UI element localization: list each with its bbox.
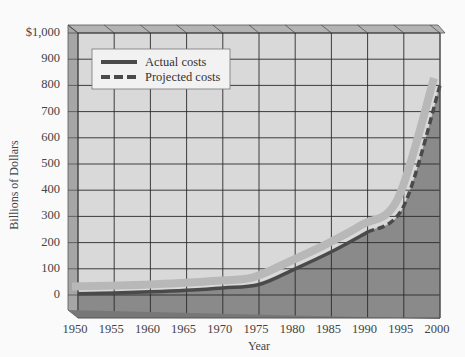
x-tick-label: 2000 [425,322,450,336]
x-tick-label: 1970 [207,322,232,336]
y-tick-label: 900 [41,51,60,65]
y-tick-label: 800 [41,77,60,91]
y-tick-label: 400 [41,182,60,196]
y-tick-label: 700 [41,104,60,118]
x-tick-label: 1960 [135,322,160,336]
x-tick-label: 1985 [316,322,341,336]
cost-chart: 0100200300400500600700800900$1,000195019… [0,0,465,357]
x-tick-label: 1965 [171,322,196,336]
x-tick-label: 1990 [352,322,377,336]
x-axis-title: Year [248,339,270,353]
x-tick-label: 1980 [280,322,305,336]
x-tick-label: 1995 [388,322,413,336]
y-tick-label: 600 [41,130,60,144]
y-tick-label: $1,000 [26,25,60,39]
y-tick-label: 300 [41,208,60,222]
legend: Actual costs Projected costs [92,49,230,89]
y-tick-label: 500 [41,156,60,170]
x-tick-label: 1955 [99,322,124,336]
x-tick-label: 1950 [63,322,88,336]
y-tick-label: 100 [41,261,60,275]
top-wall [68,25,445,33]
y-tick-label: 0 [54,287,60,301]
x-tick-label: 1975 [244,322,269,336]
legend-label-actual: Actual costs [145,55,207,69]
left-wall [68,25,78,318]
y-axis-title: Billions of Dollars [7,140,21,230]
y-tick-label: 200 [41,235,60,249]
legend-label-projected: Projected costs [145,70,220,84]
